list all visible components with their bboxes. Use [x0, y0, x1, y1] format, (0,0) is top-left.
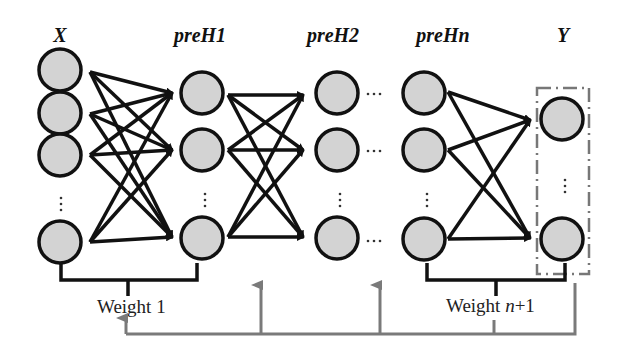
diagram-canvas: X preH1 preH2 preHn Y — [0, 0, 620, 356]
node-x-1 — [39, 49, 81, 91]
node-preh2-2 — [316, 129, 358, 171]
node-x-2 — [39, 92, 81, 134]
layer-x-nodes — [39, 49, 81, 263]
node-preh1-2 — [181, 129, 223, 171]
layer-label-prehn: preHn — [414, 24, 469, 47]
edges-preh1-to-preh2 — [228, 95, 303, 237]
weightn1-bracket — [427, 263, 565, 296]
layer-label-preh2: preH2 — [305, 24, 359, 47]
node-preh1-n — [181, 217, 223, 259]
layer-y-nodes — [541, 98, 583, 260]
edges-x-to-preh1 — [90, 72, 172, 242]
node-prehn-2 — [403, 129, 445, 171]
node-preh2-1 — [316, 72, 358, 114]
node-y-n — [541, 218, 583, 260]
node-preh1-1 — [181, 72, 223, 114]
layer-prehn-nodes — [403, 72, 445, 260]
node-prehn-n — [403, 218, 445, 260]
horizontal-ellipses — [367, 93, 382, 243]
node-y-1 — [541, 98, 583, 140]
layer-preh1-nodes — [181, 72, 223, 259]
weight1-bracket — [61, 263, 197, 296]
layer-label-y: Y — [557, 24, 571, 46]
layer-preh2-nodes — [316, 72, 358, 259]
node-x-3 — [39, 134, 81, 176]
weight1-label: Weight 1 — [97, 296, 166, 317]
edges-prehn-to-y — [448, 92, 530, 239]
layer-label-x: X — [52, 24, 67, 46]
node-x-n — [39, 221, 81, 263]
layer-label-preh1: preH1 — [172, 24, 226, 47]
node-prehn-1 — [403, 72, 445, 114]
weightn1-label: Weight n+1 — [446, 295, 535, 316]
node-preh2-n — [316, 217, 358, 259]
